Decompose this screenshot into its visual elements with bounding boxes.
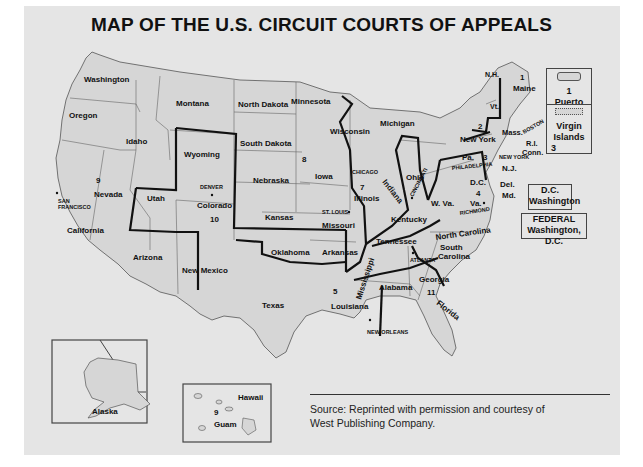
label-missouri: Missouri [322, 221, 355, 230]
city-new-york: NEW YORK [499, 154, 529, 160]
circuit-2: 2 [478, 122, 483, 131]
dc-circuit-box: D.C. Washington [528, 184, 572, 210]
label-georgia: Georgia [419, 275, 450, 284]
source-divider [310, 394, 610, 395]
label-md: Md. [502, 191, 516, 200]
city-atlanta: ATLANTA [410, 257, 435, 263]
label-utah: Utah [147, 194, 165, 203]
label-tennessee: Tennessee [376, 237, 417, 246]
label-nh: N.H. [485, 71, 499, 78]
st-louis-dot [348, 211, 350, 213]
label-illinois: Illinois [354, 194, 380, 203]
label-washington: Washington [84, 75, 130, 84]
label-texas: Texas [262, 301, 285, 310]
city-new-orleans: NEW ORLEANS [367, 329, 409, 335]
virgin-islands-label-2: Islands [547, 132, 591, 143]
puerto-rico-island-icon [547, 72, 591, 86]
circuit-10: 10 [210, 215, 219, 224]
label-idaho: Idaho [126, 137, 147, 146]
denver-dot [211, 194, 213, 196]
san-francisco-dot [56, 192, 58, 194]
federal-circuit-line1: FEDERAL [522, 214, 586, 225]
label-colorado: Colorado [197, 201, 232, 210]
puerto-rico-circuit: 1 [547, 86, 591, 97]
federal-circuit-box: FEDERAL Washington, D.C. [521, 213, 587, 239]
label-arizona: Arizona [133, 253, 163, 262]
label-south-dakota: South Dakota [240, 139, 292, 148]
cincinnati-dot [411, 197, 413, 199]
label-alaska: Alaska [92, 407, 118, 416]
city-boston: BOSTON [522, 118, 545, 135]
circuit-7: 7 [360, 183, 365, 192]
virgin-islands-icon [547, 108, 591, 121]
label-nj: N.J. [502, 164, 517, 173]
label-new-mexico: New Mexico [182, 266, 228, 275]
label-kansas: Kansas [265, 213, 294, 222]
virgin-islands-circuit: 3 [547, 143, 591, 154]
city-san-francisco-2: FRANCISCO [58, 204, 91, 210]
virgin-islands-label-1: Virgin [547, 121, 591, 132]
source-line-1: Source: Reprinted with permission and co… [310, 402, 545, 416]
label-new-york: New York [460, 135, 496, 144]
label-wisconsin: Wisconsin [330, 127, 370, 136]
city-denver: DENVER [200, 184, 223, 190]
label-north-dakota: North Dakota [238, 100, 289, 109]
dc-circuit-line2: Washington [529, 196, 571, 207]
label-arkansas: Arkansas [322, 248, 359, 257]
label-maine: Maine [513, 84, 536, 93]
city-chicago: CHICAGO [352, 169, 379, 175]
circuit-4: 4 [476, 189, 481, 198]
federal-circuit-line2: Washington, D.C. [522, 225, 586, 247]
new-orleans-dot [369, 319, 371, 321]
label-nebraska: Nebraska [253, 176, 290, 185]
label-michigan: Michigan [380, 119, 415, 128]
label-south-carolina-1: South [440, 243, 463, 252]
label-montana: Montana [176, 99, 209, 108]
city-st-louis: ST. LOUIS [322, 209, 349, 215]
label-del: Del. [500, 180, 515, 189]
label-iowa: Iowa [315, 172, 333, 181]
label-kentucky: Kentucky [391, 215, 428, 224]
label-hawaii: Hawaii [238, 393, 263, 402]
puerto-rico-box: 1 Puerto Rico [546, 68, 592, 106]
label-w-va: W. Va. [431, 199, 454, 208]
circuit-5: 5 [333, 287, 338, 296]
label-guam: Guam [214, 420, 237, 429]
source-line-2: West Publishing Company. [310, 416, 545, 430]
circuit-11: 11 [427, 288, 436, 297]
label-nevada: Nevada [94, 190, 123, 199]
circuit-9: 9 [96, 176, 101, 185]
label-vt: Vt. [490, 103, 499, 110]
label-oklahoma: Oklahoma [271, 248, 310, 257]
label-dc: D.C. [470, 178, 486, 187]
richmond-dot [483, 202, 485, 204]
label-louisiana: Louisiana [331, 302, 369, 311]
virgin-islands-box: Virgin Islands 3 [546, 104, 592, 154]
atlanta-dot [412, 252, 414, 254]
label-alabama: Alabama [379, 283, 413, 292]
label-wyoming: Wyoming [184, 150, 220, 159]
label-minnesota: Minnesota [291, 97, 331, 106]
label-south-carolina-2: Carolina [438, 252, 471, 261]
label-ri: R.I. [526, 139, 538, 148]
label-pa: Pa. [462, 153, 474, 162]
circuit-9-hawaii: 9 [214, 408, 219, 417]
dc-circuit-line1: D.C. [529, 185, 571, 196]
circuit-8: 8 [302, 155, 307, 164]
label-oregon: Oregon [69, 111, 98, 120]
source-note: Source: Reprinted with permission and co… [310, 402, 545, 430]
label-california: California [67, 226, 104, 235]
label-mass: Mass. [502, 128, 523, 137]
circuit-1: 1 [520, 73, 525, 82]
